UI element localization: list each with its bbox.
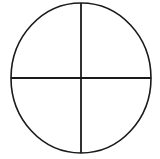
diagram-canvas: Quartered circle with crosshair A plain … — [0, 0, 160, 159]
figure-background — [0, 0, 160, 159]
quartered-circle-figure — [0, 0, 160, 159]
